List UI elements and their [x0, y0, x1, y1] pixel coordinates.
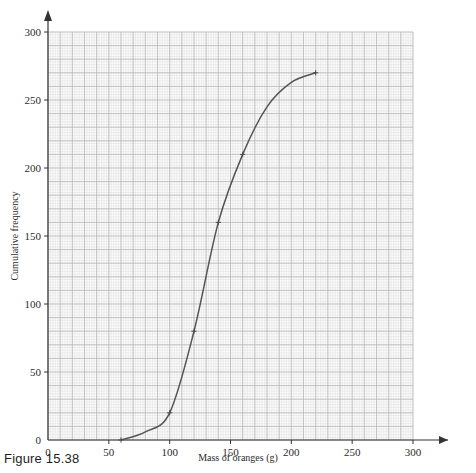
x-tick-label: 250 [344, 446, 361, 458]
x-tick-label: 200 [283, 446, 300, 458]
y-axis-title: Cumulative frequency [9, 191, 20, 280]
x-tick-label: 50 [103, 446, 115, 458]
figure-caption: Figure 15.38 [4, 451, 79, 466]
x-tick-label: 100 [161, 446, 178, 458]
y-axis-arrow [44, 10, 52, 21]
y-tick-label: 200 [25, 162, 42, 174]
figure-container: 050100150200250300050100150200250300 Mas… [0, 0, 476, 473]
y-tick-label: 50 [30, 366, 42, 378]
cumulative-frequency-chart: 050100150200250300050100150200250300 Mas… [0, 0, 476, 473]
x-tick-label: 300 [405, 446, 422, 458]
x-axis-arrow [439, 436, 448, 444]
x-axis-title: Mass of oranges (g) [198, 452, 278, 464]
y-tick-label: 100 [25, 298, 42, 310]
y-tick-label: 0 [36, 434, 42, 446]
y-tick-label: 250 [25, 94, 42, 106]
y-tick-label: 150 [25, 230, 42, 242]
y-tick-label: 300 [25, 26, 42, 38]
